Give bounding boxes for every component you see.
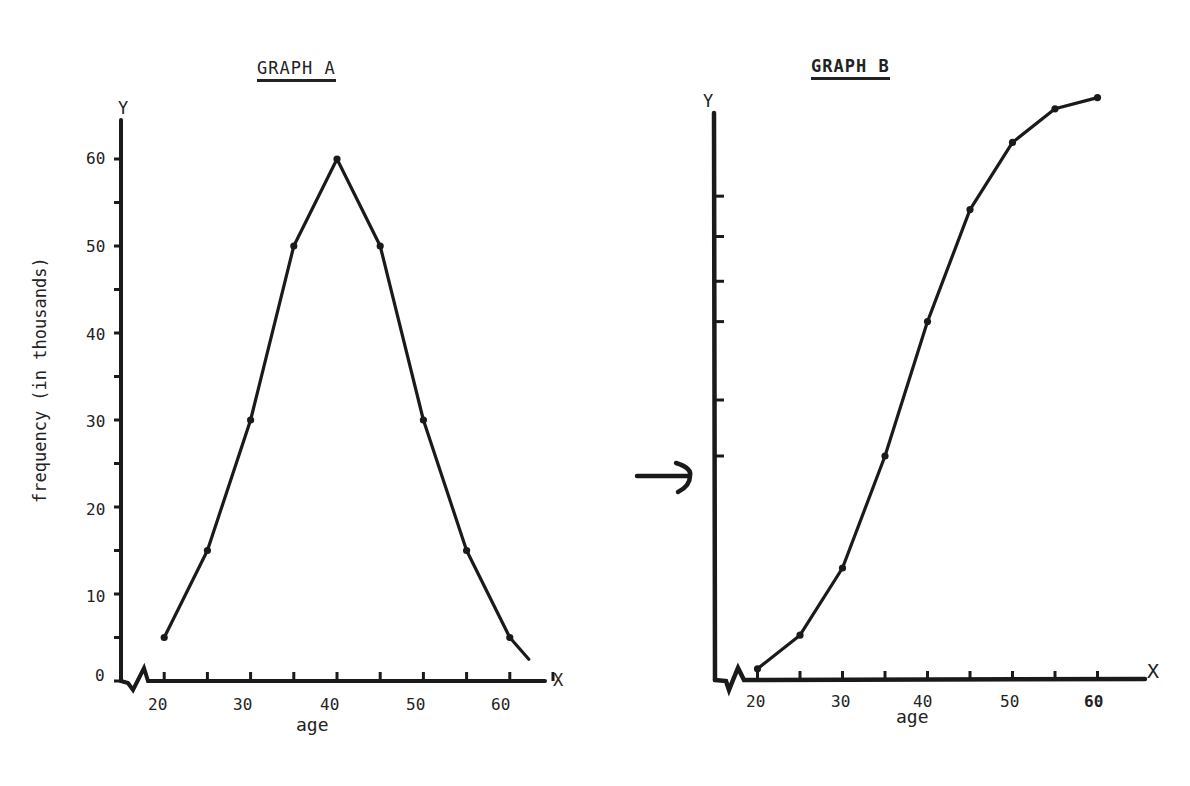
- data-point: [506, 634, 513, 641]
- data-point: [796, 632, 803, 639]
- graph-b-data-points: [754, 94, 1101, 672]
- data-point: [966, 206, 973, 213]
- data-point: [754, 665, 761, 672]
- data-point: [333, 155, 340, 162]
- y-tick-label: 30: [86, 412, 105, 431]
- data-point: [247, 416, 254, 423]
- graph-a-x-axis-label: age: [296, 714, 329, 735]
- x-tick-label: 30: [831, 692, 850, 711]
- graph-a-y-axis-letter: Y: [118, 98, 128, 118]
- x-tick-label: 40: [320, 695, 339, 714]
- data-point: [881, 452, 888, 459]
- data-point: [1094, 94, 1101, 101]
- x-tick-label: 20: [746, 692, 765, 711]
- graph-a-data-points: [161, 155, 514, 641]
- graph-b-axes: [714, 113, 1145, 690]
- x-tick-label: 50: [1000, 692, 1019, 711]
- graph-b-x-axis-break: [715, 668, 1145, 690]
- data-point: [463, 547, 470, 554]
- x-tick-label: 60: [1084, 692, 1103, 711]
- y-tick-label: 10: [86, 587, 105, 606]
- x-tick-label: 60: [491, 695, 510, 714]
- plot-canvas: [0, 0, 1190, 786]
- graph-a-frequency-curve: [164, 159, 529, 659]
- graph-b-y-axis: [714, 113, 715, 680]
- x-tick-label: 50: [406, 695, 425, 714]
- arrow-right-icon: [637, 463, 690, 492]
- data-point: [1051, 105, 1058, 112]
- graph-a-axes: [121, 120, 545, 690]
- graph-b-y-axis-letter: Y: [703, 91, 713, 111]
- data-point: [290, 242, 297, 249]
- y-tick-label: 0: [95, 666, 105, 685]
- y-tick-label: 40: [86, 325, 105, 344]
- data-point: [924, 318, 931, 325]
- graph-a-title: GRAPH A: [257, 58, 336, 82]
- graph-b-x-axis-letter: X: [1147, 659, 1159, 683]
- data-point: [1009, 139, 1016, 146]
- graph-a-y-axis-label: frequency (in thousands): [30, 173, 50, 503]
- data-point: [377, 242, 384, 249]
- chart-figure: GRAPH A Y X frequency (in thousands) age…: [0, 0, 1190, 786]
- graph-a-x-axis-break: [121, 668, 545, 690]
- graph-b-title: GRAPH B: [811, 56, 890, 80]
- graph-b-cumulative-curve: [758, 98, 1098, 669]
- x-tick-label: 40: [913, 692, 932, 711]
- data-point: [161, 634, 168, 641]
- data-point: [204, 547, 211, 554]
- data-point: [420, 416, 427, 423]
- y-tick-label: 50: [86, 237, 105, 256]
- x-tick-label: 20: [148, 695, 167, 714]
- y-tick-label: 60: [86, 149, 105, 168]
- graph-a-x-axis-letter: X: [553, 670, 563, 690]
- x-tick-label: 30: [233, 695, 252, 714]
- y-tick-label: 20: [86, 500, 105, 519]
- data-point: [839, 564, 846, 571]
